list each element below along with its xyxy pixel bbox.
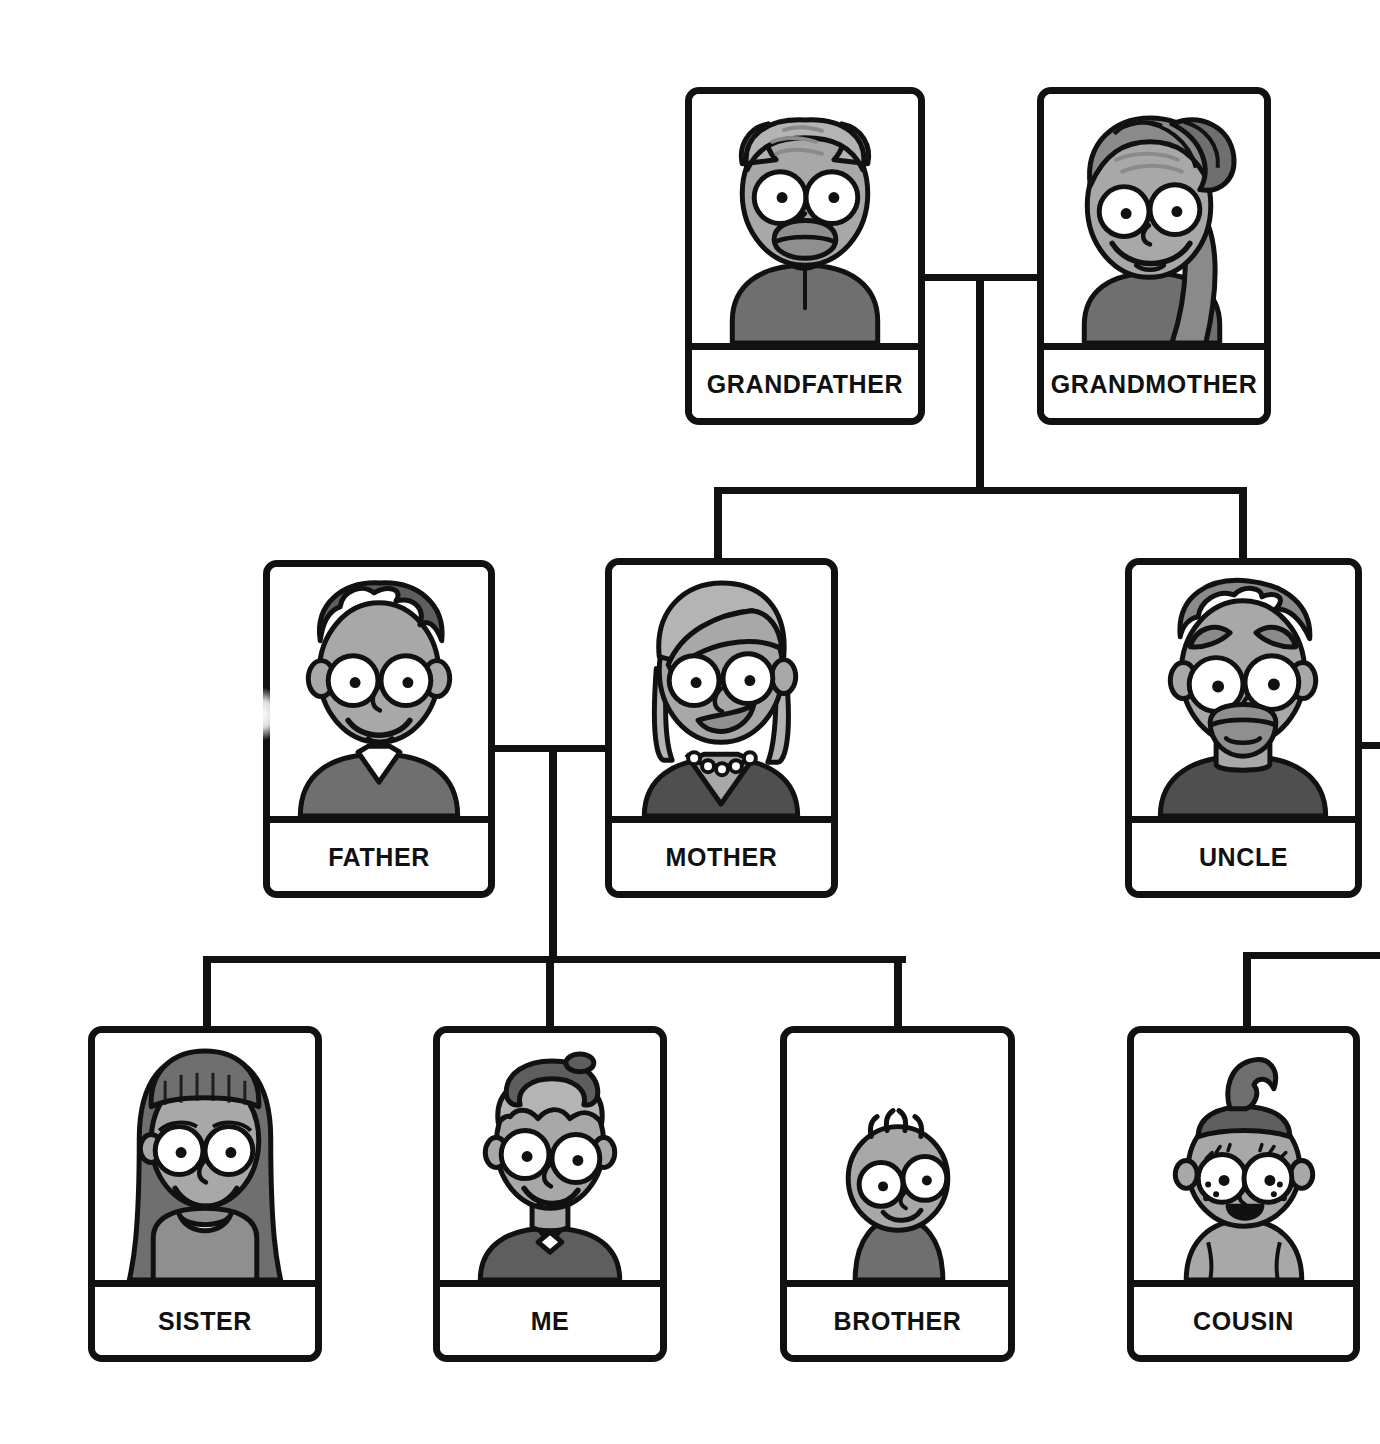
person-card-grandfather[interactable]: GRANDFATHER bbox=[685, 87, 925, 425]
portrait-uncle bbox=[1132, 565, 1355, 816]
person-label-me: ME bbox=[531, 1307, 570, 1336]
portrait-brother bbox=[787, 1033, 1008, 1280]
person-card-grandmother[interactable]: GRANDMOTHER bbox=[1037, 87, 1271, 425]
person-label-grandfather: GRANDFATHER bbox=[707, 370, 903, 399]
connector-children-sibling-bar bbox=[203, 956, 906, 963]
person-label-uncle: UNCLE bbox=[1199, 843, 1288, 872]
connector-bar-to-sister bbox=[203, 956, 211, 1030]
portrait-father bbox=[270, 567, 488, 816]
connector-bar-to-cousin bbox=[1243, 952, 1251, 1030]
card-label-bar-mother: MOTHER bbox=[612, 816, 831, 891]
person-card-cousin[interactable]: COUSIN bbox=[1127, 1026, 1360, 1362]
card-label-bar-me: ME bbox=[440, 1280, 660, 1355]
person-label-cousin: COUSIN bbox=[1193, 1307, 1294, 1336]
family-tree-diagram: GRANDFATHER bbox=[0, 0, 1380, 1444]
connector-grandparents-sibling-bar bbox=[714, 487, 1247, 494]
person-card-mother[interactable]: MOTHER bbox=[605, 558, 838, 898]
person-card-uncle[interactable]: UNCLE bbox=[1125, 558, 1362, 898]
card-label-bar-grandfather: GRANDFATHER bbox=[692, 343, 918, 418]
portrait-sister bbox=[95, 1033, 315, 1280]
person-card-brother[interactable]: BROTHER bbox=[780, 1026, 1015, 1362]
connector-bar-to-uncle bbox=[1239, 487, 1247, 562]
card-label-bar-uncle: UNCLE bbox=[1132, 816, 1355, 891]
portrait-grandmother bbox=[1044, 94, 1264, 343]
connector-bar-to-me bbox=[546, 956, 554, 1030]
connector-parents-descent bbox=[549, 745, 557, 960]
person-label-sister: SISTER bbox=[158, 1307, 252, 1336]
person-label-brother: BROTHER bbox=[834, 1307, 962, 1336]
portrait-mother bbox=[612, 565, 831, 816]
card-label-bar-cousin: COUSIN bbox=[1134, 1280, 1353, 1355]
portrait-cousin bbox=[1134, 1033, 1353, 1280]
person-label-mother: MOTHER bbox=[666, 843, 778, 872]
connector-bar-to-mother bbox=[714, 487, 722, 562]
connector-grandparents-descent bbox=[976, 274, 984, 490]
portrait-me bbox=[440, 1033, 660, 1280]
portrait-grandfather bbox=[692, 94, 918, 343]
person-card-me[interactable]: ME bbox=[433, 1026, 667, 1362]
connector-bar-to-brother bbox=[894, 956, 902, 1030]
card-label-bar-brother: BROTHER bbox=[787, 1280, 1008, 1355]
person-label-father: FATHER bbox=[328, 843, 430, 872]
card-label-bar-father: FATHER bbox=[270, 816, 488, 891]
connector-cousin-sibling-bar-offscreen bbox=[1243, 952, 1380, 959]
card-label-bar-grandmother: GRANDMOTHER bbox=[1044, 343, 1264, 418]
card-label-bar-sister: SISTER bbox=[95, 1280, 315, 1355]
connector-uncle-marriage-offscreen bbox=[1360, 742, 1380, 749]
person-card-sister[interactable]: SISTER bbox=[88, 1026, 322, 1362]
person-label-grandmother: GRANDMOTHER bbox=[1051, 370, 1258, 399]
person-card-father[interactable]: FATHER bbox=[263, 560, 495, 898]
